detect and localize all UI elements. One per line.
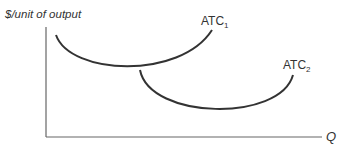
y-axis-label: $/unit of output <box>5 8 81 20</box>
x-axis-label: Q <box>326 129 336 144</box>
atc2-curve <box>140 70 293 109</box>
atc1-label: ATC1 <box>201 14 229 30</box>
cost-curves-diagram: $/unit of output ATC1 ATC2 Q <box>0 0 348 150</box>
diagram-graphics <box>0 0 348 150</box>
atc1-curve <box>56 30 212 66</box>
atc2-label: ATC2 <box>283 58 311 74</box>
